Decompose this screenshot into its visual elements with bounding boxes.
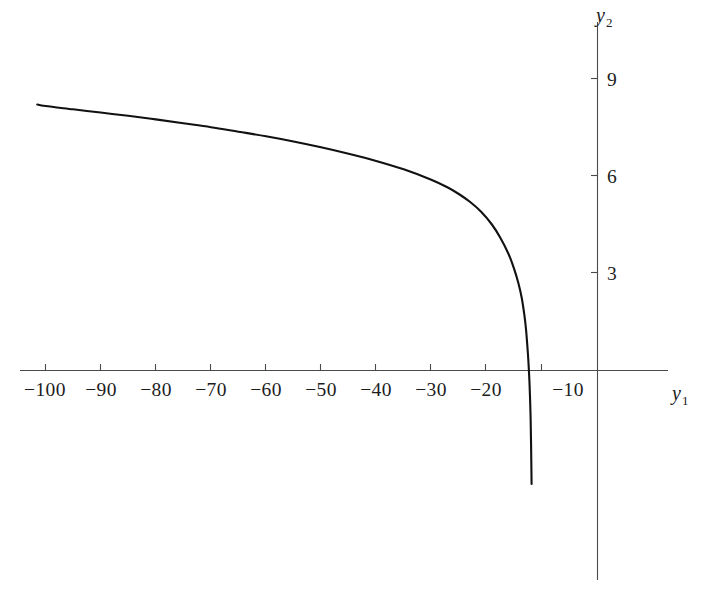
x-axis-label: y1 (670, 382, 688, 408)
x-tick-labels: −100 −90 −80 −70 −60 −50 −40 −30 −20 −10 (24, 379, 584, 400)
x-tick-label: −10 (552, 379, 584, 400)
chart-figure: −100 −90 −80 −70 −60 −50 −40 −30 −20 −10… (0, 0, 714, 596)
data-curve (37, 104, 531, 484)
y-axis-label: y2 (594, 4, 612, 30)
y-tick-labels: 3 6 9 (607, 69, 617, 284)
x-tick-label: −90 (85, 379, 117, 400)
x-tick-label: −60 (250, 379, 282, 400)
x-tick-label: −80 (140, 379, 172, 400)
x-tick-label: −50 (305, 379, 337, 400)
y-axis-label-base: y (594, 4, 605, 27)
y-tick-label: 6 (607, 166, 617, 187)
y-tick-label: 3 (607, 263, 617, 284)
x-tick-label: −30 (415, 379, 447, 400)
y-axis-label-subscript: 2 (606, 15, 613, 30)
x-axis-label-base: y (670, 382, 681, 405)
y-tick-label: 9 (607, 69, 617, 90)
x-axis-label-subscript: 1 (682, 393, 689, 408)
x-tick-label: −70 (195, 379, 227, 400)
x-tick-label: −20 (470, 379, 502, 400)
x-tick-marks (46, 364, 542, 370)
x-tick-label: −100 (24, 379, 66, 400)
x-tick-label: −40 (360, 379, 392, 400)
